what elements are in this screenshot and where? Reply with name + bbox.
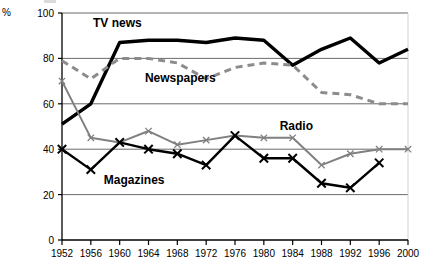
series-line-radio xyxy=(62,81,408,165)
y-axis-tick-label: 20 xyxy=(28,189,54,200)
series-label-tv-news: TV news xyxy=(93,16,142,30)
scan-artifact xyxy=(44,0,56,3)
x-axis-tick-label: 2000 xyxy=(391,248,424,259)
series-markers-radio xyxy=(59,78,411,168)
y-axis-tick-label: 40 xyxy=(28,144,54,155)
series-label-magazines: Magazines xyxy=(104,173,165,187)
series-label-radio: Radio xyxy=(280,119,313,133)
gridlines xyxy=(62,13,408,195)
series-line-newspapers xyxy=(62,58,408,103)
y-axis-tick-label: 60 xyxy=(28,98,54,109)
series-label-newspapers: Newspapers xyxy=(145,71,216,85)
y-axis-tick-label: 0 xyxy=(28,235,54,246)
series-line-tv-news xyxy=(62,38,408,124)
y-axis-tick-label: 100 xyxy=(28,8,54,19)
y-axis-tick-label: 80 xyxy=(28,53,54,64)
y-axis-unit-label: % xyxy=(2,7,11,18)
